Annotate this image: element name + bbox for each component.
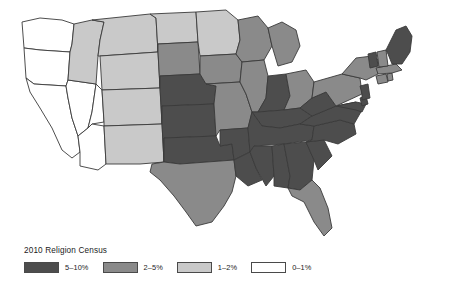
legend-swatch [251,262,286,273]
legend-item: 0–1% [251,262,311,273]
legend-item: 2–5% [103,262,163,273]
state-ia: Iowa — 2–5% [200,54,242,84]
state-tx: Texas — 2–5% [150,160,236,226]
choropleth-map-figure: Washington — 0–1%Oregon — 0–1%California… [0,0,462,290]
state-mt: Montana — 1–2% [92,14,158,56]
legend-label: 2–5% [144,263,163,272]
legend-item: 5–10% [24,262,89,273]
state-mi: Michigan — 2–5% [268,22,300,66]
legend-items: 5–10%2–5%1–2%0–1% [24,262,444,273]
legend-item: 1–2% [177,262,237,273]
state-mn: Minnesota — 1–2% [196,10,240,56]
state-wi: Wisconsin — 2–5% [236,16,272,62]
state-me: Maine — 5–10% [386,26,412,64]
state-ct: Connecticut — 2–5% [376,74,388,84]
legend-label: 0–1% [292,263,311,272]
legend-swatch [103,262,138,273]
state-ri: Rhode Island — 2–5% [387,73,393,81]
legend-swatch [24,262,59,273]
legend-label: 1–2% [218,263,237,272]
us-states-map: Washington — 0–1%Oregon — 0–1%California… [0,0,462,250]
state-nh: New Hampshire — 2–5% [377,50,388,67]
state-nm: New Mexico — 1–2% [104,124,164,164]
state-vt: Vermont — 5–10% [368,52,378,68]
map-legend: 2010 Religion Census 5–10%2–5%1–2%0–1% [24,245,444,273]
state-wy: Wyoming — 1–2% [100,52,160,90]
states-layer: Washington — 0–1%Oregon — 0–1%California… [22,10,412,236]
legend-title: 2010 Religion Census [24,245,444,256]
legend-label: 5–10% [65,263,89,272]
legend-swatch [177,262,212,273]
state-or: Oregon — 0–1% [24,48,70,86]
state-wa: Washington — 0–1% [22,18,74,52]
state-co: Colorado — 1–2% [102,88,162,126]
